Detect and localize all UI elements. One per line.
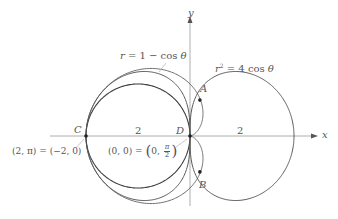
point-c-label: C	[74, 125, 82, 135]
cardioid-label-theta: θ	[181, 50, 187, 61]
point-a-label: A	[200, 84, 207, 94]
x-axis-arrow-icon	[311, 134, 318, 139]
polar-d-left: (0, 0) =	[108, 146, 145, 156]
point-c-marker	[84, 134, 88, 138]
polar-d-paren-close: )	[171, 142, 177, 160]
segment-length-right: 2	[237, 126, 243, 136]
cardioid-label-rest: = 1 − cos	[125, 50, 181, 61]
y-axis-label: y	[188, 8, 194, 18]
point-b-marker	[198, 170, 202, 174]
point-d-label: D	[176, 126, 184, 136]
lemni-label-theta: θ	[268, 63, 274, 74]
cardioid-equation-label: r = 1 − cos θ	[120, 51, 187, 61]
point-b-label: B	[199, 180, 206, 190]
polar-d-zero: 0,	[151, 146, 162, 156]
segment-length-left: 2	[135, 126, 141, 136]
pi-over-two-fraction: π2	[164, 144, 171, 159]
fraction-denominator: 2	[164, 152, 171, 159]
point-d-marker	[188, 134, 192, 138]
point-a-marker	[198, 98, 202, 102]
polar-coord-d-label: (0, 0) = (0, π2)	[108, 144, 177, 159]
polar-coord-c-label: (2, π) = (−2, 0)	[12, 147, 81, 156]
lemniscate-equation-label: r2 = 4 cos θ	[215, 64, 274, 74]
cardioid-leader-line	[159, 63, 166, 72]
d-leader-line	[176, 139, 187, 147]
polar-curves-diagram	[0, 0, 338, 219]
lemni-label-rest: = 4 cos	[224, 63, 268, 74]
x-axis-label: x	[322, 130, 328, 140]
